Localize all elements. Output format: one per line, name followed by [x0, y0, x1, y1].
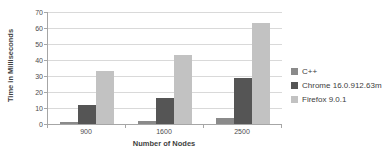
legend-item-chrome-16-0-912-63m: Chrome 16.0.912.63m — [291, 78, 382, 92]
y-tick-label-0: 0 — [0, 121, 43, 128]
y-tick-label-40: 40 — [0, 57, 43, 64]
y-tick-mark-50 — [44, 44, 47, 45]
gridline-y-40 — [48, 60, 282, 61]
y-tick-mark-20 — [44, 92, 47, 93]
x-tick-mark-2 — [203, 125, 204, 128]
y-tick-label-60: 60 — [0, 25, 43, 32]
legend-label: Firefox 9.0.1 — [302, 95, 346, 104]
y-tick-mark-10 — [44, 108, 47, 109]
gridline-y-70 — [48, 12, 282, 13]
x-tick-mark-1 — [125, 125, 126, 128]
legend-item-firefox-9-0-1: Firefox 9.0.1 — [291, 92, 382, 106]
legend-label: Chrome 16.0.912.63m — [302, 81, 382, 90]
bar-900-chrome-16-0-912-63m — [78, 105, 96, 124]
legend: C++Chrome 16.0.912.63mFirefox 9.0.1 — [291, 64, 382, 106]
bar-1600-c- — [138, 121, 156, 124]
x-tick-mark-0 — [47, 125, 48, 128]
legend-swatch-icon — [291, 96, 298, 103]
legend-item-c-: C++ — [291, 64, 382, 78]
x-axis-title: Number of Nodes — [47, 139, 281, 148]
gridline-y-30 — [48, 76, 282, 77]
bar-chart: Time in Milliseconds Number of Nodes C++… — [0, 0, 388, 160]
legend-swatch-icon — [291, 68, 298, 75]
bar-2500-chrome-16-0-912-63m — [234, 78, 252, 124]
y-tick-label-30: 30 — [0, 73, 43, 80]
x-tick-label-2500: 2500 — [203, 128, 281, 135]
bar-900-c- — [60, 122, 78, 124]
y-tick-label-50: 50 — [0, 41, 43, 48]
bar-2500-firefox-9-0-1 — [252, 23, 270, 124]
legend-label: C++ — [302, 67, 317, 76]
x-tick-label-900: 900 — [47, 128, 125, 135]
y-tick-mark-40 — [44, 60, 47, 61]
gridline-y-50 — [48, 44, 282, 45]
bar-1600-firefox-9-0-1 — [174, 55, 192, 124]
y-tick-mark-60 — [44, 28, 47, 29]
y-tick-label-10: 10 — [0, 105, 43, 112]
x-tick-mark-3 — [281, 125, 282, 128]
legend-swatch-icon — [291, 82, 298, 89]
y-tick-label-20: 20 — [0, 89, 43, 96]
bar-1600-chrome-16-0-912-63m — [156, 98, 174, 124]
y-tick-label-70: 70 — [0, 9, 43, 16]
y-tick-mark-30 — [44, 76, 47, 77]
plot-area — [47, 12, 282, 125]
x-tick-label-1600: 1600 — [125, 128, 203, 135]
y-tick-mark-70 — [44, 12, 47, 13]
bar-2500-c- — [216, 118, 234, 124]
gridline-y-60 — [48, 28, 282, 29]
bar-900-firefox-9-0-1 — [96, 71, 114, 124]
